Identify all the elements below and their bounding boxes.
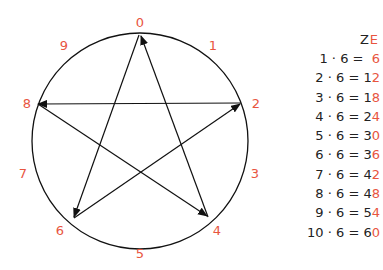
row-ones: 6: [372, 145, 380, 164]
row-expression: 2 · 6 =: [315, 68, 363, 87]
row-ones: 0: [372, 223, 380, 242]
row-expression: 6 · 6 =: [315, 145, 363, 164]
row-tens: 5: [363, 203, 371, 222]
row-tens: 1: [363, 88, 371, 107]
digit-label-3: 3: [251, 166, 259, 181]
table-row: 6 · 6 = 36: [290, 145, 380, 164]
row-expression: 10 · 6 =: [307, 223, 363, 242]
arrow-4-to-0: [141, 36, 208, 217]
row-expression: 1 · 6 =: [319, 49, 367, 68]
table-row: 8 · 6 = 48: [290, 184, 380, 203]
table-row: 9 · 6 = 54: [290, 203, 380, 222]
row-ones: 8: [372, 184, 380, 203]
digit-label-1: 1: [209, 38, 217, 53]
row-tens: 3: [363, 145, 371, 164]
circle: [32, 33, 248, 249]
row-expression: 5 · 6 =: [315, 126, 363, 145]
digit-label-4: 4: [213, 223, 221, 238]
row-ones: 8: [372, 88, 380, 107]
table-row: 10 · 6 = 60: [290, 223, 380, 242]
row-ones: 4: [372, 203, 380, 222]
table-row: 4 · 6 = 24: [290, 107, 380, 126]
table-row: 5 · 6 = 30: [290, 126, 380, 145]
multiplication-table: ZE 1 · 6 = 6 2 · 6 = 12 3 · 6 = 18 4 · 6…: [290, 30, 380, 242]
table-header: ZE: [290, 30, 380, 49]
row-expression: 8 · 6 =: [315, 184, 363, 203]
row-tens: 3: [363, 126, 371, 145]
row-tens: 1: [363, 68, 371, 87]
digit-label-7: 7: [19, 166, 27, 181]
multiplication-circle-diagram: 0 1 2 3 4 5 6 7 8 9: [0, 0, 280, 270]
digit-label-0: 0: [136, 15, 144, 30]
digit-label-6: 6: [56, 223, 64, 238]
row-ones: 6: [372, 49, 380, 68]
row-tens: 4: [363, 184, 371, 203]
digit-label-9: 9: [60, 38, 68, 53]
table-row: 7 · 6 = 42: [290, 165, 380, 184]
row-expression: 3 · 6 =: [315, 88, 363, 107]
header-ones: E: [370, 32, 379, 47]
table-row: 1 · 6 = 6: [290, 49, 380, 68]
row-ones: 4: [372, 107, 380, 126]
arrow-2-to-8: [38, 103, 241, 104]
row-ones: 2: [372, 165, 380, 184]
table-row: 3 · 6 = 18: [290, 88, 380, 107]
row-tens: 6: [363, 223, 371, 242]
row-expression: 9 · 6 =: [315, 203, 363, 222]
digit-label-5: 5: [136, 246, 144, 261]
digit-label-8: 8: [23, 96, 31, 111]
row-tens: 2: [363, 107, 371, 126]
table-row: 2 · 6 = 12: [290, 68, 380, 87]
row-tens: 4: [363, 165, 371, 184]
digit-label-2: 2: [252, 96, 260, 111]
row-ones: 0: [372, 126, 380, 145]
header-tens: Z: [360, 32, 370, 47]
row-expression: 7 · 6 =: [315, 165, 363, 184]
row-expression: 4 · 6 =: [315, 107, 363, 126]
arrow-0-to-6: [74, 35, 139, 217]
arrow-6-to-2: [74, 104, 240, 218]
row-ones: 2: [372, 68, 380, 87]
arrow-8-to-4: [38, 104, 207, 216]
